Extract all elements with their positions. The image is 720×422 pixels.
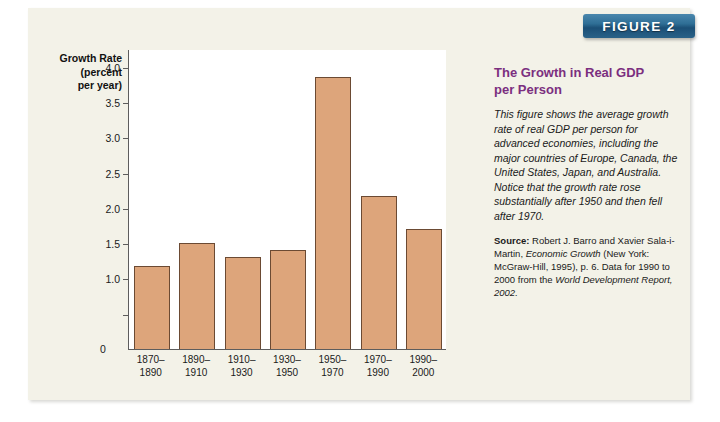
y-tick-mark: [123, 279, 128, 280]
plot-inner: 1.01.52.02.53.03.54.0: [128, 50, 446, 350]
y-tick-mark: [123, 138, 128, 139]
x-axis-label: 1870–1890: [137, 354, 165, 379]
bar: [134, 266, 170, 349]
x-axis-label: 1950–1970: [319, 354, 347, 379]
bar: [225, 257, 261, 349]
x-axis-label-line: 1890–: [182, 354, 210, 367]
x-axis-label-line: 1950–: [319, 354, 347, 367]
figure-title-line-2: per Person: [494, 81, 682, 98]
bar: [315, 77, 351, 349]
x-axis-label-line: 1890: [137, 367, 165, 380]
x-axis-label-line: 1990–: [409, 354, 437, 367]
bar: [361, 196, 397, 349]
bar: [406, 229, 442, 349]
source-title-1: Economic Growth: [526, 248, 601, 259]
x-axis-label: 1990–2000: [409, 354, 437, 379]
x-axis-line: [128, 349, 446, 350]
y-tick-mark: [123, 174, 128, 175]
x-axis-label-line: 1910–: [228, 354, 256, 367]
x-axis-label-line: 1930: [228, 367, 256, 380]
figure-title: The Growth in Real GDP per Person: [494, 64, 682, 98]
y-axis-zero-label: 0: [100, 343, 106, 355]
y-tick-label: 1.0: [105, 273, 120, 285]
y-tick-mark: [123, 244, 128, 245]
y-tick-mark: [123, 68, 128, 69]
y-tick-label: 2.5: [105, 168, 120, 180]
bar: [179, 243, 215, 349]
bar-chart: Growth Rate (percent per year) 1.01.52.0…: [48, 48, 458, 378]
source-label: Source:: [494, 235, 529, 246]
figure-number-banner: FIGURE 2: [583, 14, 695, 38]
y-tick-label: 4.0: [105, 62, 120, 74]
x-axis-label-line: 2000: [409, 367, 437, 380]
x-axis-label-line: 1970–: [364, 354, 392, 367]
x-axis-label-line: 1870–: [137, 354, 165, 367]
figure-sidebar: The Growth in Real GDP per Person This f…: [494, 64, 682, 299]
x-axis-label: 1910–1930: [228, 354, 256, 379]
figure-number-label: FIGURE 2: [602, 19, 675, 34]
y-axis-title-line-3: per year): [48, 79, 122, 93]
y-tick-label: 1.5: [105, 238, 120, 250]
figure-caption: This figure shows the average growth rat…: [494, 107, 682, 223]
y-tick-mark: [123, 103, 128, 104]
figure-page: FIGURE 2 Growth Rate (percent per year) …: [0, 0, 720, 422]
y-tick-label: 3.5: [105, 97, 120, 109]
figure-source: Source: Robert J. Barro and Xavier Sala-…: [494, 234, 682, 299]
figure-title-line-1: The Growth in Real GDP: [494, 64, 682, 81]
x-axis-label: 1970–1990: [364, 354, 392, 379]
x-axis-label-line: 1970: [319, 367, 347, 380]
y-tick-mark: [123, 209, 128, 210]
x-axis-label-line: 1950: [273, 367, 301, 380]
bar: [270, 250, 306, 349]
bar-series: [129, 50, 446, 349]
x-axis-label-line: 1930–: [273, 354, 301, 367]
y-tick-label: 2.0: [105, 203, 120, 215]
x-axis-label: 1930–1950: [273, 354, 301, 379]
y-tick-mark: [123, 315, 128, 316]
y-tick-label: 3.0: [105, 132, 120, 144]
x-axis-label-line: 1910: [182, 367, 210, 380]
x-axis-label-line: 1990: [364, 367, 392, 380]
x-axis-label: 1890–1910: [182, 354, 210, 379]
plot-area: 1.01.52.02.53.03.54.0: [128, 50, 446, 350]
